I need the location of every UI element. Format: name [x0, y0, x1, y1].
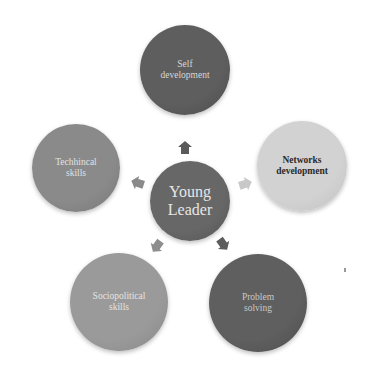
arrow-icon-to-problem-solving — [214, 235, 233, 254]
leadership-diagram: Self development Networks development Pr… — [0, 0, 370, 376]
center-label: Young Leader — [168, 183, 212, 220]
node-label: Techhincal skills — [55, 157, 97, 179]
arrow-icon-to-sociopolitical-skills — [147, 237, 166, 256]
node-label: Sociopolitical skills — [93, 291, 146, 313]
node-self-development: Self development — [140, 25, 230, 115]
node-sociopolitical-skills: Sociopolitical skills — [70, 253, 168, 351]
arrow-icon-to-networks-development — [237, 175, 254, 192]
center-node-young-leader: Young Leader — [150, 161, 230, 241]
node-networks-development: Networks development — [257, 121, 347, 211]
stray-mark — [344, 268, 346, 272]
node-label: Self development — [160, 59, 209, 81]
node-label: Problem solving — [242, 292, 274, 314]
node-label: Networks development — [276, 155, 328, 177]
arrow-icon-to-technical-skills — [129, 174, 146, 191]
arrow-icon-to-self-development — [178, 141, 192, 154]
node-technical-skills: Techhincal skills — [32, 124, 120, 212]
node-problem-solving: Problem solving — [209, 254, 307, 352]
